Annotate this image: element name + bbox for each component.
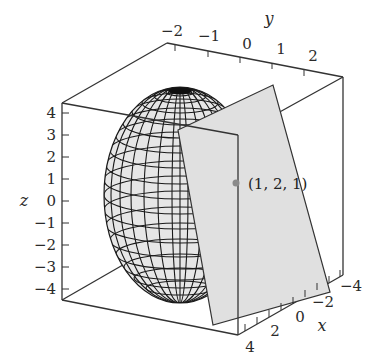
z-tick-label: −3 [34, 258, 56, 276]
z-axis-label: z [19, 191, 29, 210]
y-tick-label: 1 [276, 40, 286, 58]
z-tick-label: −4 [34, 280, 56, 298]
z-tick-label: 4 [46, 104, 56, 122]
y-tick-label: 0 [242, 35, 252, 53]
y-axis-label: y [263, 9, 274, 28]
z-tick-label: −2 [34, 236, 56, 254]
x-axis-label: x [317, 316, 326, 335]
z-tick-label: 2 [46, 148, 56, 166]
x-tick-label: 2 [270, 322, 280, 340]
z-tick-label: −1 [34, 214, 56, 232]
tangent-point-marker [233, 180, 240, 187]
x-tick-label: −4 [340, 277, 362, 295]
z-tick-label: 1 [46, 170, 56, 188]
y-tick-label: 2 [308, 47, 318, 65]
x-tick-label: 0 [295, 308, 305, 326]
x-tick-label: −2 [312, 293, 334, 311]
y-tick-label: −1 [198, 27, 220, 45]
y-tick-label: −2 [161, 22, 183, 40]
x-tick-label: 4 [245, 338, 255, 356]
3d-plot: (1, 2, 1) −2 −1 0 1 2 y 4 3 2 1 0 −1 −2 … [0, 0, 377, 357]
z-tick-label: 0 [46, 192, 56, 210]
point-annotation: (1, 2, 1) [248, 175, 307, 193]
z-tick-label: 3 [46, 126, 56, 144]
y-axis: −2 −1 0 1 2 y [161, 9, 318, 76]
